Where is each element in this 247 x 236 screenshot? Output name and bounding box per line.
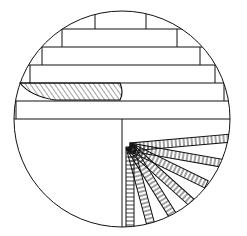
circular-diagram bbox=[0, 0, 247, 236]
hatched-wedge bbox=[20, 83, 122, 100]
plank-courses bbox=[14, 11, 230, 119]
fan-strips bbox=[126, 134, 230, 232]
